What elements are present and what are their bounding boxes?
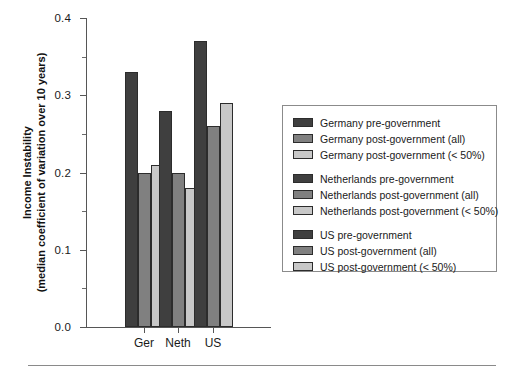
legend-item[interactable]: Germany pre-government bbox=[293, 115, 488, 130]
legend-item[interactable]: US post-government (all) bbox=[293, 243, 488, 258]
legend-swatch-icon bbox=[293, 134, 313, 143]
legend-label: Germany post-government (all) bbox=[320, 133, 465, 145]
y-tick-label: 0.0 bbox=[54, 321, 71, 333]
y-tick-major: 0.2 bbox=[80, 173, 86, 174]
legend-label: Netherlands post-government (< 50%) bbox=[320, 205, 498, 217]
bar-neth-1 bbox=[172, 173, 185, 328]
y-tick-major: 0.1 bbox=[80, 250, 86, 251]
legend-group-0: Germany pre-governmentGermany post-gover… bbox=[293, 115, 488, 162]
y-tick-major: 0.0 bbox=[80, 327, 86, 328]
y-tick-major: 0.3 bbox=[80, 95, 86, 96]
legend-item[interactable]: Germany post-government (all) bbox=[293, 131, 488, 146]
y-axis-title-line1: Income Instability bbox=[20, 53, 34, 293]
legend-swatch-icon bbox=[293, 262, 313, 271]
chart-figure: (median coefficient of variation over 10… bbox=[0, 0, 517, 374]
y-tick-minor bbox=[82, 134, 86, 135]
y-tick-minor bbox=[82, 57, 86, 58]
legend-swatch-icon bbox=[293, 118, 313, 127]
legend-swatch-icon bbox=[293, 174, 313, 183]
legend-swatch-icon bbox=[293, 206, 313, 215]
legend-item[interactable]: Germany post-government (< 50%) bbox=[293, 147, 488, 162]
legend-label: US pre-government bbox=[320, 229, 412, 241]
bar-neth-0 bbox=[159, 111, 172, 327]
y-tick-minor bbox=[82, 288, 86, 289]
legend-swatch-icon bbox=[293, 190, 313, 199]
bar-ger-0 bbox=[125, 72, 138, 327]
legend-swatch-icon bbox=[293, 246, 313, 255]
y-tick-label: 0.1 bbox=[54, 244, 71, 256]
bottom-divider bbox=[28, 365, 496, 366]
x-tick-label-neth: Neth bbox=[165, 336, 190, 350]
y-tick-label: 0.2 bbox=[54, 167, 71, 179]
legend-label: Netherlands pre-government bbox=[320, 173, 454, 185]
legend-item[interactable]: Netherlands post-government (< 50%) bbox=[293, 203, 488, 218]
legend-item[interactable]: US pre-government bbox=[293, 227, 488, 242]
legend-swatch-icon bbox=[293, 150, 313, 159]
y-tick-major: 0.4 bbox=[80, 18, 86, 19]
chart-legend: Germany pre-governmentGermany post-gover… bbox=[282, 105, 497, 272]
x-tick bbox=[144, 327, 145, 333]
y-tick-label: 0.4 bbox=[54, 12, 71, 24]
bar-us-2 bbox=[220, 103, 233, 327]
x-tick-label-ger: Ger bbox=[134, 336, 154, 350]
x-tick-label-us: US bbox=[205, 336, 222, 350]
legend-label: Germany pre-government bbox=[320, 117, 440, 129]
bar-us-1 bbox=[207, 126, 220, 327]
legend-label: US post-government (< 50%) bbox=[320, 261, 456, 273]
legend-group-2: US pre-governmentUS post-government (all… bbox=[293, 227, 488, 274]
legend-item[interactable]: US post-government (< 50%) bbox=[293, 259, 488, 274]
legend-item[interactable]: Netherlands post-government (all) bbox=[293, 187, 488, 202]
y-axis-title: (median coefficient of variation over 10… bbox=[20, 18, 80, 327]
plot-area: 0.00.10.20.30.4 GerNethUS bbox=[86, 18, 271, 327]
legend-swatch-icon bbox=[293, 230, 313, 239]
legend-label: Netherlands post-government (all) bbox=[320, 189, 479, 201]
y-tick-minor bbox=[82, 211, 86, 212]
legend-item[interactable]: Netherlands pre-government bbox=[293, 171, 488, 186]
y-axis-title-line2: (median coefficient of variation over 10… bbox=[34, 53, 48, 293]
bar-ger-1 bbox=[138, 173, 151, 328]
legend-group-1: Netherlands pre-governmentNetherlands po… bbox=[293, 171, 488, 218]
legend-label: Germany post-government (< 50%) bbox=[320, 149, 485, 161]
y-tick-label: 0.3 bbox=[54, 89, 71, 101]
x-tick bbox=[178, 327, 179, 333]
y-axis-line bbox=[86, 18, 87, 327]
x-tick bbox=[213, 327, 214, 333]
bar-us-0 bbox=[194, 41, 207, 327]
legend-label: US post-government (all) bbox=[320, 245, 437, 257]
